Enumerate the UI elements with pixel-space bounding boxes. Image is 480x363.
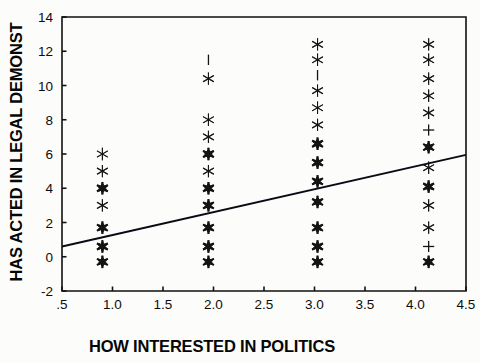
x-tick-label-4: 2.5 <box>255 297 274 312</box>
x-tick-label-8: 4.5 <box>457 297 476 312</box>
data-point <box>423 256 434 268</box>
regression-line <box>62 155 466 247</box>
y-tick-label-6: 10 <box>38 79 53 94</box>
data-point <box>97 182 108 194</box>
axis-group <box>62 17 466 291</box>
data-point <box>203 256 214 268</box>
data-point <box>97 148 108 160</box>
y-tick-labels: -202468101214 <box>38 10 54 299</box>
y-tick-label-4: 6 <box>45 147 53 162</box>
data-point <box>423 241 434 252</box>
data-point <box>312 119 323 131</box>
data-point <box>312 175 323 187</box>
y-tick-label-5: 8 <box>45 113 53 128</box>
data-point <box>97 165 108 177</box>
data-point <box>312 196 323 208</box>
data-point <box>97 221 108 233</box>
x-tick-label-5: 3.0 <box>305 297 324 312</box>
data-point <box>203 131 214 143</box>
data-point <box>203 114 214 126</box>
data-point <box>312 54 323 66</box>
regression-line-group <box>62 155 466 247</box>
data-point <box>203 240 214 252</box>
data-point <box>203 72 214 84</box>
y-tick-label-3: 4 <box>45 181 53 196</box>
data-point <box>203 148 214 160</box>
y-axis-label: HAS ACTED IN LEGAL DEMONST <box>7 22 25 281</box>
x-tick-label-6: 3.5 <box>356 297 375 312</box>
data-point <box>97 240 108 252</box>
data-point <box>312 84 323 96</box>
data-point <box>312 38 323 50</box>
data-point <box>423 90 434 102</box>
data-point <box>423 107 434 119</box>
x-tick-label-7: 4.0 <box>406 297 425 312</box>
data-point <box>423 54 434 66</box>
data-point <box>423 180 434 192</box>
data-point <box>312 221 323 233</box>
data-point <box>423 38 434 50</box>
x-axis-label: HOW INTERESTED IN POLITICS <box>89 337 335 355</box>
x-tick-label-0: .5 <box>56 297 67 312</box>
data-point <box>312 256 323 268</box>
data-point-group <box>97 38 434 268</box>
data-point <box>97 199 108 211</box>
x-tick-labels: .51.01.52.02.53.03.54.04.5 <box>56 297 475 312</box>
data-point <box>97 256 108 268</box>
data-point <box>203 199 214 211</box>
data-point <box>203 221 214 233</box>
data-point <box>312 240 323 252</box>
data-point <box>423 199 434 211</box>
axis-frame <box>62 17 466 291</box>
data-point <box>312 138 323 150</box>
data-point <box>312 102 323 114</box>
data-point <box>423 141 434 153</box>
x-tick-label-2: 1.5 <box>154 297 173 312</box>
data-point <box>312 156 323 168</box>
data-point <box>203 182 214 194</box>
scatter-plot-figure: .51.01.52.02.53.03.54.04.5 -202468101214… <box>0 0 480 363</box>
y-tick-label-7: 12 <box>38 44 53 59</box>
data-point <box>423 124 434 135</box>
y-tick-label-2: 2 <box>45 216 53 231</box>
y-tick-label-1: 0 <box>45 250 53 265</box>
y-tick-label-0: -2 <box>41 284 53 299</box>
data-point <box>423 221 434 233</box>
plot-canvas: .51.01.52.02.53.03.54.04.5 -202468101214… <box>0 0 480 363</box>
x-tick-label-1: 1.0 <box>103 297 122 312</box>
tick-mark-group <box>62 17 466 291</box>
data-point <box>423 72 434 84</box>
y-tick-label-8: 14 <box>38 10 54 25</box>
x-tick-label-3: 2.0 <box>204 297 223 312</box>
data-point <box>203 165 214 177</box>
